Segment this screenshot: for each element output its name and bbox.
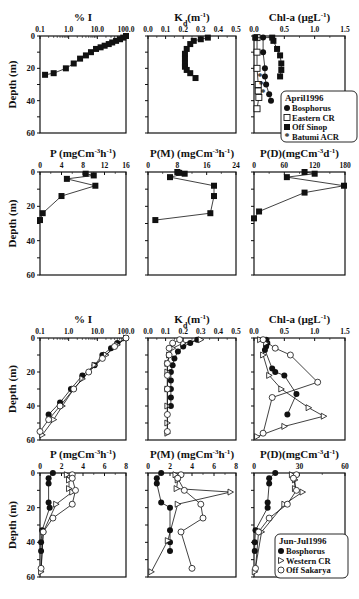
x-tick-label: 8 [124,462,128,471]
figure: % I0.11.010.0100.00204060Depth (m)Kd(m-1… [0,0,359,599]
x-tick-label: 12 [101,161,109,170]
x-tick-label: 0.0 [143,327,153,336]
plot-frame [254,172,345,275]
legend-item-label: Batumi ACR [292,132,340,142]
series-off-sakarya [175,472,206,572]
y-tick-label: 40 [27,537,36,547]
x-tick-label: 0 [38,462,42,471]
panel-apr_P: P (mgCm-3h-1)04812160204060Depth (m) [6,147,130,280]
x-tick-label: 6 [103,462,107,471]
y-tick-label: 20 [27,63,36,73]
series-off-sinop [37,171,98,223]
x-tick-label: 0.0 [249,25,259,34]
plot-frame [40,172,126,275]
y-tick-label: 0 [31,468,35,478]
y-axis-label: Depth (m) [6,501,19,549]
y-tick-label: 0 [31,31,35,41]
x-tick-label: 16 [122,161,130,170]
x-tick-label: 0.1 [35,25,45,34]
panel-title: % I [74,313,92,325]
series-off-sinop [182,35,211,81]
x-tick-label: 8 [234,462,238,471]
panel-title: P(D)(mgCm-3d-1) [260,147,339,160]
x-tick-label: 4 [190,462,194,471]
plot-frame [40,338,126,440]
panel-title: P (mgCm-3h-1) [50,448,116,461]
x-tick-label: 8 [175,161,179,170]
y-axis-label: Depth (m) [6,199,19,247]
series-western-cr [40,335,129,438]
svg-text:*: * [261,87,266,98]
plot-frame [40,473,126,577]
legend-junjul: Jun-Jul1996BosphorusWestern CROff Sakary… [275,534,348,578]
legend-item-label: Eastern CR [292,113,336,123]
y-tick-label: 0 [31,167,35,177]
x-tick-label: 0.5 [280,25,290,34]
plot-frame [148,172,236,275]
x-tick-label: 6 [212,462,216,471]
panel-title: Chl-a (µgL-1) [269,313,331,326]
x-tick-label: 0 [252,462,256,471]
x-tick-label: 0.2 [179,25,189,34]
panel-jun_Chl: Chl-a (µgL-1)0.00.51.01.5 [249,313,350,440]
x-tick-label: 0.1 [161,25,171,34]
x-tick-label: 4 [60,161,64,170]
plot-frame [148,36,236,133]
panel-jun_P: P (mgCm-3h-1)024680204060Depth (m) [6,448,128,582]
x-tick-label: 0 [146,462,150,471]
panel-title: Chl-a (µgL-1) [269,11,331,24]
x-tick-label: 0 [38,161,42,170]
x-tick-label: 0.1 [161,327,171,336]
y-tick-label: 40 [27,401,36,411]
legend-item-label: Western CR [286,556,331,566]
x-tick-label: 2 [168,462,172,471]
x-tick-label: 1.5 [340,327,350,336]
x-tick-label: 100.0 [118,25,135,34]
x-tick-label: 0.0 [143,25,153,34]
legend-title: April1996 [285,93,324,103]
series-off-sakarya [260,337,321,437]
x-tick-label: 60 [281,161,289,170]
x-tick-label: 30 [296,462,304,471]
plot-frame [148,338,236,440]
y-tick-label: 60 [27,270,36,280]
x-tick-label: 4 [81,462,85,471]
x-tick-label: 8 [81,161,85,170]
x-tick-label: 0.5 [231,25,241,34]
x-tick-label: 0.3 [196,327,206,336]
series-off-sinop [251,169,347,221]
panel-apr_I: % I0.11.010.0100.00204060Depth (m) [6,11,135,138]
x-tick-label: 0.0 [249,327,259,336]
legend-item-label: Bosphorus [292,103,331,113]
x-tick-label: 24 [232,161,240,170]
x-tick-label: 16 [203,161,211,170]
y-tick-label: 40 [27,96,36,106]
y-tick-label: 60 [27,128,36,138]
panel-apr_PM: P(M) (mgCm-3h-1)081624 [145,147,240,275]
panel-jun_PM: P(M) (mgCm-3h-1)02468 [145,448,238,577]
x-tick-label: 10.0 [91,25,104,34]
x-tick-label: 0 [146,161,150,170]
plot-frame [40,36,126,133]
panel-jun_Kd: Kd(m-1)0.00.10.20.30.40.5 [143,313,241,440]
panel-title: P (mgCm-3h-1) [50,147,116,160]
series-bosphorus [38,470,56,554]
x-tick-label: 1.0 [310,327,320,336]
x-tick-label: 0.3 [196,25,206,34]
y-axis-label: Depth (m) [6,365,19,413]
panel-title: P(M) (mgCm-3h-1) [150,147,234,160]
legend-item-label: Off Sakarya [286,565,331,575]
y-axis-label: Depth (m) [6,60,19,108]
y-tick-label: 60 [27,572,36,582]
x-tick-label: 0.1 [35,327,45,336]
legend-item-label: Off Sinop [292,122,327,132]
x-tick-label: 0.4 [214,25,224,34]
x-tick-label: 1.5 [340,25,350,34]
x-tick-label: 180 [339,161,351,170]
x-tick-label: 120 [309,161,321,170]
series-off-sinop [152,169,217,223]
legend-title: Jun-Jul1996 [279,536,327,546]
y-tick-label: 0 [31,333,35,343]
y-tick-label: 20 [27,503,36,513]
panel-title: P(M) (mgCm-3h-1) [150,448,234,461]
